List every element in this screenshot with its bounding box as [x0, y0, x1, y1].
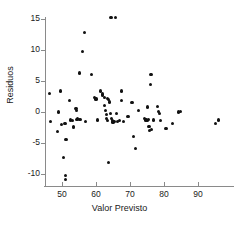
- data-point: [158, 112, 161, 115]
- y-axis-line: [45, 17, 46, 187]
- data-point: [64, 174, 67, 177]
- data-point: [104, 109, 107, 112]
- x-axis-line: [44, 186, 234, 187]
- data-point: [108, 100, 111, 103]
- data-point: [115, 112, 118, 115]
- data-point: [83, 31, 86, 34]
- data-point: [103, 104, 106, 107]
- y-tick-label: 0: [35, 107, 40, 116]
- x-tick-mark: [164, 182, 165, 187]
- y-tick-label: -10: [28, 169, 40, 178]
- y-tick-mark: [41, 174, 46, 175]
- data-point: [179, 110, 182, 113]
- data-point: [59, 89, 62, 92]
- data-point: [90, 73, 93, 76]
- x-tick-mark: [62, 182, 63, 187]
- data-point: [71, 119, 74, 122]
- data-point: [120, 89, 123, 92]
- x-tick-mark: [130, 182, 131, 187]
- x-tick-label: 60: [86, 190, 106, 199]
- data-point: [48, 92, 51, 95]
- data-point: [132, 135, 135, 138]
- data-point: [156, 105, 159, 108]
- data-point: [78, 118, 81, 121]
- x-tick-label: 50: [52, 190, 72, 199]
- y-tick-mark: [41, 50, 46, 51]
- scatter-plot-figure: -10-5051015 5060708090 Residuos Valor Pr…: [0, 0, 239, 226]
- data-point: [109, 112, 112, 115]
- data-point: [64, 178, 67, 181]
- data-point: [126, 115, 129, 118]
- data-point: [68, 99, 71, 102]
- y-tick-mark: [41, 112, 46, 113]
- data-point: [81, 50, 84, 53]
- data-point: [214, 122, 217, 125]
- data-point: [164, 127, 167, 130]
- data-point: [96, 118, 99, 121]
- data-point: [63, 122, 66, 125]
- x-tick-mark: [198, 182, 199, 187]
- y-tick-mark: [41, 143, 46, 144]
- x-axis-title: Valor Previsto: [0, 203, 239, 213]
- y-tick-mark: [41, 19, 46, 20]
- y-tick-label: 5: [35, 76, 40, 85]
- data-point: [118, 119, 121, 122]
- y-tick-label: 15: [31, 14, 40, 23]
- data-point: [60, 123, 63, 126]
- data-point: [171, 122, 174, 125]
- x-tick-label: 90: [188, 190, 208, 199]
- data-point: [152, 118, 155, 121]
- data-point: [57, 110, 60, 113]
- data-point: [109, 16, 112, 19]
- data-point: [105, 113, 108, 116]
- data-point: [94, 97, 97, 100]
- data-point: [122, 120, 125, 123]
- x-tick-mark: [96, 182, 97, 187]
- data-point: [120, 99, 123, 102]
- data-point: [149, 83, 152, 86]
- y-axis-title: Residuos: [5, 55, 15, 115]
- data-point: [146, 105, 149, 108]
- data-point: [78, 71, 81, 74]
- x-tick-label: 70: [120, 190, 140, 199]
- data-point: [217, 118, 220, 121]
- data-point: [159, 119, 162, 122]
- data-point: [106, 119, 109, 122]
- data-point: [147, 118, 150, 121]
- plot-area: -10-5051015 5060708090 Residuos Valor Pr…: [0, 0, 239, 226]
- y-tick-label: -5: [32, 138, 40, 147]
- data-point: [149, 73, 152, 76]
- y-tick-mark: [41, 81, 46, 82]
- data-point: [49, 120, 52, 123]
- data-point: [150, 128, 153, 131]
- data-point: [84, 120, 87, 123]
- data-point: [64, 138, 67, 141]
- data-point: [56, 130, 59, 133]
- y-tick-label: 10: [31, 45, 40, 54]
- data-point: [137, 109, 140, 112]
- data-point: [107, 161, 110, 164]
- x-tick-label: 80: [154, 190, 174, 199]
- data-point: [130, 101, 133, 104]
- data-point: [62, 156, 65, 159]
- data-point: [72, 126, 75, 129]
- data-point: [75, 109, 78, 112]
- data-point: [114, 16, 117, 19]
- data-point: [134, 147, 137, 150]
